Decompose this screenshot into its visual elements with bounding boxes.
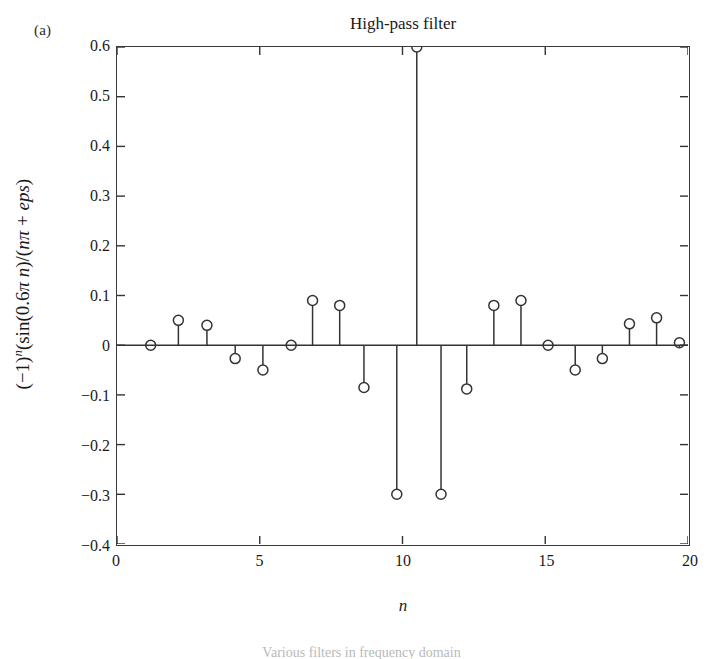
plot-area [116, 46, 690, 546]
data-point-marker [516, 295, 526, 305]
data-point-marker [359, 382, 369, 392]
data-point-marker [230, 354, 240, 364]
y-tick-label: 0.4 [58, 137, 110, 155]
figure-container: (a) High-pass filter (−1)n(sin(0.6π n)/(… [0, 0, 723, 659]
x-tick-label: 20 [670, 552, 710, 570]
x-axis-label: n [116, 596, 690, 616]
chart-title: High-pass filter [116, 14, 690, 34]
y-tick-label: −0.1 [58, 387, 110, 405]
panel-label: (a) [34, 22, 51, 39]
stem-plot-svg [117, 47, 688, 544]
figure-caption: Various filters in frequency domain [0, 645, 723, 659]
data-point-marker [436, 489, 446, 499]
y-tick-label: 0.2 [58, 237, 110, 255]
data-point-marker [335, 300, 345, 310]
y-tick-label: 0.1 [58, 287, 110, 305]
y-tick-label: −0.3 [58, 487, 110, 505]
data-point-marker [308, 295, 318, 305]
data-point-marker [173, 315, 183, 325]
y-tick-label: 0.6 [58, 37, 110, 55]
y-axis-tick-labels: 0.60.50.40.30.20.10−0.1−0.2−0.3−0.4 [52, 46, 110, 546]
x-tick-label: 5 [240, 552, 280, 570]
y-axis-label-exponent: n [10, 350, 25, 356]
x-tick-label: 10 [383, 552, 423, 570]
data-point-marker [258, 365, 268, 375]
data-point-marker [412, 47, 422, 52]
data-point-marker [570, 365, 580, 375]
data-point-marker [597, 354, 607, 364]
data-point-marker [202, 320, 212, 330]
y-tick-label: −0.2 [58, 437, 110, 455]
x-tick-label: 15 [527, 552, 567, 570]
y-tick-label: 0 [58, 337, 110, 355]
x-tick-label: 0 [96, 552, 136, 570]
y-tick-label: 0.5 [58, 87, 110, 105]
x-axis-tick-labels: 05101520 [116, 552, 690, 580]
data-point-marker [652, 313, 662, 323]
y-axis-label-rest: (sin(0.6π n)/(nπ + eps) [12, 179, 33, 350]
data-point-marker [392, 489, 402, 499]
y-axis-label: (−1)n(sin(0.6π n)/(nπ + eps) [10, 24, 34, 544]
data-point-marker [489, 300, 499, 310]
data-point-marker [462, 384, 472, 394]
y-tick-label: 0.3 [58, 187, 110, 205]
y-axis-label-base: (−1) [12, 357, 33, 390]
data-point-marker [624, 319, 634, 329]
